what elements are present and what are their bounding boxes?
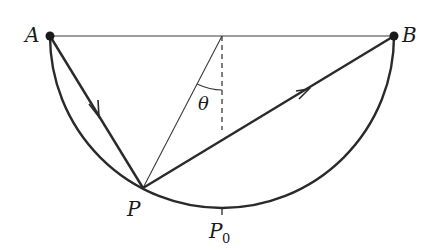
label-p0: P xyxy=(208,219,223,243)
semicircle-diagram: A B P P 0 θ xyxy=(0,0,439,250)
chord-p-to-b xyxy=(143,36,394,188)
theta-arc xyxy=(197,84,222,90)
label-theta: θ xyxy=(198,93,209,114)
label-b: B xyxy=(401,23,417,47)
label-p: P xyxy=(126,197,141,221)
point-b-dot xyxy=(390,32,399,41)
point-a-dot xyxy=(46,32,55,41)
chord-a-to-p xyxy=(50,36,143,188)
label-p0-subscript: 0 xyxy=(222,231,230,246)
diagram-canvas: A B P P 0 θ xyxy=(0,0,439,250)
label-a: A xyxy=(23,23,39,47)
